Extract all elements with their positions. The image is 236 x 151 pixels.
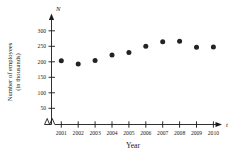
y-axis-title-line2: (in thousands): [14, 53, 22, 91]
y-axis-title: Number of employees (in thousands): [6, 42, 22, 101]
x-tick-label: 2003: [90, 130, 101, 136]
x-axis-title: Year: [126, 141, 140, 150]
data-point: [143, 44, 148, 49]
x-tick-label: 2007: [157, 130, 168, 136]
y-axis-title-line1: Number of employees: [6, 42, 13, 101]
x-tick-label: 2001: [56, 130, 67, 136]
y-tick-150: 150: [38, 74, 55, 80]
x-tick-2005: 2005: [123, 121, 134, 135]
y-tick-label: 150: [38, 74, 47, 80]
x-tick-label: 2008: [174, 130, 185, 136]
x-axis-break-icon: [45, 119, 55, 125]
y-tick-300: 300: [38, 28, 55, 34]
x-tick-label: 2004: [106, 130, 117, 136]
y-tick-group: 50 100 150 200 250 300: [38, 28, 55, 112]
x-tick-2009: 2009: [191, 121, 202, 135]
x-tick-2001: 2001: [56, 121, 67, 135]
x-tick-2004: 2004: [106, 121, 117, 135]
y-tick-label: 50: [40, 105, 46, 111]
employees-scatter-chart: N t 50 100 150 20: [0, 0, 236, 151]
y-tick-label: 250: [38, 43, 47, 49]
y-tick-label: 300: [38, 28, 47, 34]
x-tick-label: 2002: [73, 130, 84, 136]
x-tick-label: 2009: [191, 130, 202, 136]
y-tick-250: 250: [38, 43, 55, 49]
x-axis-arrow-icon: [216, 122, 223, 127]
y-tick-200: 200: [38, 59, 55, 65]
chart-canvas: N t 50 100 150 20: [0, 0, 236, 151]
data-point: [211, 44, 216, 49]
y-axis: N: [49, 5, 61, 125]
data-point: [177, 39, 182, 44]
y-axis-arrow-icon: [49, 14, 54, 21]
data-point: [126, 50, 131, 55]
y-tick-50: 50: [40, 105, 55, 111]
data-point: [59, 58, 64, 63]
data-point: [110, 52, 115, 57]
y-tick-label: 100: [38, 90, 47, 96]
x-tick-2006: 2006: [140, 121, 151, 135]
x-tick-2007: 2007: [157, 121, 168, 135]
y-axis-variable-label: N: [55, 5, 61, 12]
x-tick-group: 2001 2002 2003 2004 2005 2006: [56, 121, 219, 135]
x-tick-label: 2010: [208, 130, 219, 136]
y-tick-label: 200: [38, 59, 47, 65]
x-axis-variable-label: t: [226, 121, 228, 128]
x-axis: t: [45, 119, 229, 128]
x-tick-2002: 2002: [73, 121, 84, 135]
x-tick-2003: 2003: [90, 121, 101, 135]
y-tick-100: 100: [38, 90, 55, 96]
data-point: [194, 45, 199, 50]
x-tick-2008: 2008: [174, 121, 185, 135]
data-point: [76, 61, 81, 66]
data-point-group: [59, 39, 216, 67]
x-tick-label: 2006: [140, 130, 151, 136]
data-point: [160, 39, 165, 44]
x-tick-label: 2005: [123, 130, 134, 136]
data-point: [93, 58, 98, 63]
